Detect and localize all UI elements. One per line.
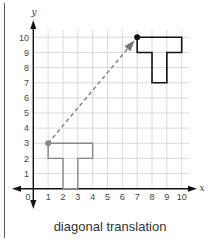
- y-tick-label: 1: [24, 169, 29, 179]
- x-tick-label: 8: [150, 192, 155, 202]
- y-axis-up-arrow-icon: [30, 20, 36, 29]
- x-axis-right-arrow-icon: [188, 186, 197, 192]
- x-tick-label: 10: [177, 192, 187, 202]
- y-tick-label: 6: [24, 93, 29, 103]
- x-axis-left-arrow-icon: [12, 186, 21, 192]
- x-tick-label: 2: [60, 192, 65, 202]
- x-tick-label: 6: [120, 192, 125, 202]
- y-tick-label: 4: [24, 123, 29, 133]
- origin-label: 0: [25, 192, 30, 202]
- coordinate-plane-figure: yx01234567891012345678910 diagonal trans…: [0, 0, 208, 244]
- translation-dashed-line: [48, 49, 127, 143]
- x-tick-label: 4: [90, 192, 95, 202]
- y-tick-label: 3: [24, 138, 29, 148]
- translated-point-dot: [134, 34, 140, 40]
- x-axis-label: x: [199, 183, 204, 193]
- translated-t-shape: [137, 37, 182, 82]
- y-tick-label: 9: [24, 48, 29, 58]
- original-t-shape: [48, 143, 93, 188]
- y-tick-label: 10: [19, 33, 29, 43]
- original-point-dot: [45, 140, 51, 146]
- x-tick-label: 5: [105, 192, 110, 202]
- x-tick-label: 9: [164, 192, 169, 202]
- coordinate-plane: yx01234567891012345678910: [0, 0, 208, 244]
- y-tick-label: 8: [24, 63, 29, 73]
- y-axis-down-arrow-icon: [30, 200, 36, 209]
- x-tick-label: 1: [46, 192, 51, 202]
- y-axis-label: y: [30, 7, 37, 17]
- y-tick-label: 5: [24, 108, 29, 118]
- x-tick-label: 3: [75, 192, 80, 202]
- figure-caption: diagonal translation: [0, 219, 208, 235]
- y-tick-label: 7: [24, 78, 29, 88]
- y-tick-label: 2: [24, 154, 29, 164]
- x-tick-label: 7: [135, 192, 140, 202]
